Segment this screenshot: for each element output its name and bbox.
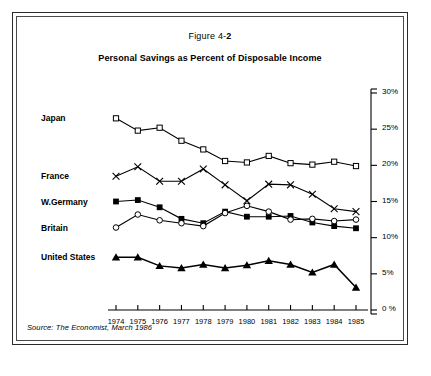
data-point-cross [222, 181, 229, 188]
data-point-open-square [266, 153, 271, 158]
x-axis-label: 1981 [260, 317, 277, 326]
data-point-open-square [310, 162, 315, 167]
data-point-filled-square [113, 199, 119, 205]
y-axis-label: 0 % [382, 304, 396, 313]
data-point-open-circle [135, 212, 141, 218]
x-axis-label: 1976 [151, 317, 168, 326]
data-point-cross [200, 166, 207, 173]
data-point-open-circle [331, 218, 337, 224]
y-axis-label: 5% [382, 268, 394, 277]
y-axis-label: 10% [382, 232, 398, 241]
data-point-open-square [288, 161, 293, 166]
data-point-cross [113, 173, 120, 180]
y-axis-label: 15% [382, 196, 398, 205]
data-point-filled-triangle [330, 260, 338, 267]
data-point-filled-square [135, 197, 141, 203]
chart-svg [13, 13, 409, 346]
data-point-open-circle [157, 218, 163, 224]
x-axis-label: 1984 [326, 317, 343, 326]
data-point-open-circle [244, 203, 250, 209]
x-axis-label: 1980 [239, 317, 256, 326]
figure-frame: Figure 4-2 Personal Savings as Percent o… [12, 12, 408, 345]
data-point-filled-square [353, 225, 359, 231]
data-point-open-circle [113, 225, 119, 231]
x-axis-label: 1983 [304, 317, 321, 326]
data-point-filled-triangle [199, 260, 207, 267]
data-point-filled-square [157, 204, 163, 210]
y-axis-label: 30% [382, 87, 398, 96]
data-point-open-circle [266, 209, 272, 215]
series-w-germany [113, 197, 359, 231]
data-point-open-square [353, 163, 358, 168]
data-point-open-circle [179, 220, 185, 226]
data-point-open-circle [288, 217, 294, 223]
source-note: Source: The Economist, March 1986 [27, 323, 152, 332]
data-point-open-square [113, 116, 118, 121]
series-united-states [112, 253, 360, 291]
chart-plot-area: 0 %5%10%15%20%25%30%19741975197619771978… [13, 13, 409, 346]
data-point-open-circle [310, 216, 316, 222]
x-axis-label: 1979 [217, 317, 234, 326]
data-point-open-square [222, 158, 227, 163]
data-point-filled-square [244, 214, 250, 220]
series-label-w-germany: W.Germany [41, 197, 88, 207]
data-point-cross [134, 163, 141, 170]
data-point-open-circle [353, 217, 359, 223]
series-label-japan: Japan [41, 113, 66, 123]
data-point-cross [309, 191, 316, 198]
data-point-open-square [332, 159, 337, 164]
x-axis-label: 1985 [348, 317, 365, 326]
y-axis-label: 25% [382, 123, 398, 132]
series-label-britain: Britain [41, 223, 68, 233]
data-point-open-square [179, 138, 184, 143]
data-point-open-square [135, 128, 140, 133]
x-axis-label: 1982 [282, 317, 299, 326]
series-label-united-states: United States [41, 252, 95, 262]
data-point-open-square [244, 160, 249, 165]
x-axis-label: 1977 [173, 317, 190, 326]
x-axis-label: 1978 [195, 317, 212, 326]
y-axis-label: 20% [382, 159, 398, 168]
data-point-open-square [157, 125, 162, 130]
data-point-open-circle [200, 223, 206, 229]
data-point-filled-triangle [265, 257, 273, 264]
data-point-open-circle [222, 210, 228, 216]
series-france [113, 163, 360, 215]
series-label-france: France [41, 171, 69, 181]
series-britain [113, 203, 359, 230]
series-japan [113, 116, 358, 169]
data-point-open-square [201, 147, 206, 152]
